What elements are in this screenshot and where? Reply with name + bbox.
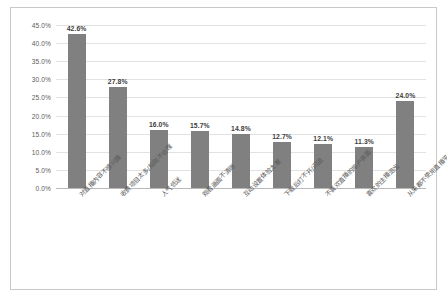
category-axis: 对直播内容不感兴趣收费项目太多/规则不合理人气低迷观看画面不清晰互动设置体验太差… bbox=[56, 189, 426, 289]
bar-group[interactable]: 15.7% bbox=[179, 25, 220, 188]
bar-group[interactable]: 42.6% bbox=[56, 25, 97, 188]
bar-value-label: 12.1% bbox=[313, 135, 333, 142]
category-axis-label: 人气低迷 bbox=[159, 192, 165, 198]
y-axis-tick-label: 40.0% bbox=[32, 40, 51, 47]
bar-value-label: 27.8% bbox=[108, 78, 128, 85]
bar-value-label: 12.7% bbox=[272, 133, 292, 140]
chart-frame: 0.0%5.0%10.0%15.0%20.0%25.0%30.0%35.0%40… bbox=[10, 7, 437, 290]
bar-group[interactable]: 16.0% bbox=[138, 25, 179, 188]
y-axis-tick-label: 20.0% bbox=[32, 112, 51, 119]
bar-value-label: 42.6% bbox=[67, 25, 87, 32]
bar-value-label: 16.0% bbox=[149, 121, 169, 128]
bar-group[interactable]: 27.8% bbox=[97, 25, 138, 188]
y-axis-tick-label: 15.0% bbox=[32, 130, 51, 137]
bar-group[interactable]: 12.7% bbox=[262, 25, 303, 188]
y-axis-tick-label: 35.0% bbox=[32, 58, 51, 65]
category-axis-label: 对直播内容不感兴趣 bbox=[77, 192, 83, 198]
bar-rect[interactable] bbox=[191, 131, 209, 188]
category-axis-label: 不喜欢直播的用户界面 bbox=[323, 192, 329, 198]
category-axis-label: 喜欢的主播退出 bbox=[364, 192, 370, 198]
bar-group[interactable]: 12.1% bbox=[303, 25, 344, 188]
y-axis-tick-label: 25.0% bbox=[32, 94, 51, 101]
bar-rect[interactable] bbox=[396, 101, 414, 188]
category-axis-label: 下载后打不开/闪退 bbox=[282, 192, 288, 198]
bar-value-label: 14.8% bbox=[231, 125, 251, 132]
bar-rect[interactable] bbox=[68, 34, 86, 188]
y-axis-tick-label: 30.0% bbox=[32, 76, 51, 83]
category-axis-label: 从来都不使用直播平台，不太了解 bbox=[405, 192, 411, 198]
bar-value-label: 11.3% bbox=[355, 138, 374, 145]
y-axis-tick-label: 0.0% bbox=[36, 185, 51, 192]
y-axis-tick-label: 10.0% bbox=[32, 148, 51, 155]
y-axis-tick-label: 5.0% bbox=[36, 166, 51, 173]
bar-rect[interactable] bbox=[232, 134, 250, 188]
bar-value-label: 15.7% bbox=[190, 122, 210, 129]
bar-group[interactable]: 14.8% bbox=[220, 25, 261, 188]
bar-rect[interactable] bbox=[109, 87, 127, 188]
bar-group[interactable]: 24.0% bbox=[385, 25, 426, 188]
bar-value-label: 24.0% bbox=[396, 92, 416, 99]
category-axis-label: 互动设置体验太差 bbox=[241, 192, 247, 198]
category-axis-label: 收费项目太多/规则不合理 bbox=[118, 192, 124, 198]
y-axis-tick-label: 45.0% bbox=[32, 22, 51, 29]
bar-group[interactable]: 11.3% bbox=[344, 25, 385, 188]
category-axis-label: 观看画面不清晰 bbox=[200, 192, 206, 198]
